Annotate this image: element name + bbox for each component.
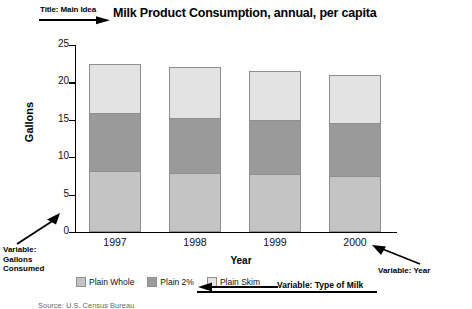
legend-label: Plain 2% xyxy=(160,277,194,287)
bar-segment[interactable] xyxy=(329,176,381,232)
y-axis-tick-label: 5 xyxy=(43,188,69,199)
plot-area xyxy=(75,45,395,232)
bar-1999[interactable] xyxy=(249,71,301,232)
bar-segment[interactable] xyxy=(249,120,301,174)
legend-item[interactable]: Plain 2% xyxy=(147,277,194,287)
legend-label: Plain Whole xyxy=(89,277,134,287)
x-axis-tick-label-1997: 1997 xyxy=(80,236,150,248)
bar-segment[interactable] xyxy=(89,64,141,113)
annotation-year-label: Variable: Year xyxy=(378,266,430,276)
annotation-gallons-line-1: Variable: xyxy=(3,245,44,255)
annotation-milk-label: Variable: Type of Milk xyxy=(277,280,363,290)
x-axis-line xyxy=(75,232,397,233)
bar-segment[interactable] xyxy=(169,173,221,232)
y-axis-tick-label: 25 xyxy=(43,38,69,49)
bar-segment[interactable] xyxy=(329,75,381,123)
bar-segment[interactable] xyxy=(249,174,301,232)
y-axis-title: Gallons xyxy=(23,77,35,167)
legend-item[interactable]: Plain Whole xyxy=(76,277,134,287)
legend-swatch-icon xyxy=(147,277,157,287)
legend-swatch-icon xyxy=(76,277,86,287)
bar-segment[interactable] xyxy=(169,67,221,117)
y-axis-tick-label: 15 xyxy=(43,113,69,124)
y-axis-tick-label: 10 xyxy=(43,150,69,161)
bar-2000[interactable] xyxy=(329,75,381,232)
x-axis-tick-label-1998: 1998 xyxy=(160,236,230,248)
annotation-gallons-arrow-icon xyxy=(14,212,64,246)
annotation-gallons-label: Variable: Gallons Consumed xyxy=(3,245,44,274)
bar-segment[interactable] xyxy=(329,123,381,176)
bar-segment[interactable] xyxy=(249,71,301,120)
annotation-gallons-line-2: Gallons xyxy=(3,255,44,265)
y-axis-tick-label: 20 xyxy=(43,75,69,86)
x-axis-tick-label-1999: 1999 xyxy=(240,236,310,248)
bar-segment[interactable] xyxy=(89,171,141,232)
annotation-gallons-line-3: Consumed xyxy=(3,264,44,274)
bar-segment[interactable] xyxy=(89,113,141,171)
annotation-milk-underline xyxy=(197,291,377,293)
bar-1998[interactable] xyxy=(169,67,221,232)
chart-title: Milk Product Consumption, annual, per ca… xyxy=(113,6,376,20)
annotation-title-label: Title: Main Idea xyxy=(40,5,96,14)
annotation-year-arrow-icon xyxy=(366,243,422,267)
y-axis-tick xyxy=(69,232,75,233)
bar-segment[interactable] xyxy=(169,118,221,173)
bar-1997[interactable] xyxy=(89,64,141,232)
source-note: Source: U.S. Census Bureau xyxy=(38,301,134,309)
annotation-title-arrow-icon xyxy=(38,16,112,25)
